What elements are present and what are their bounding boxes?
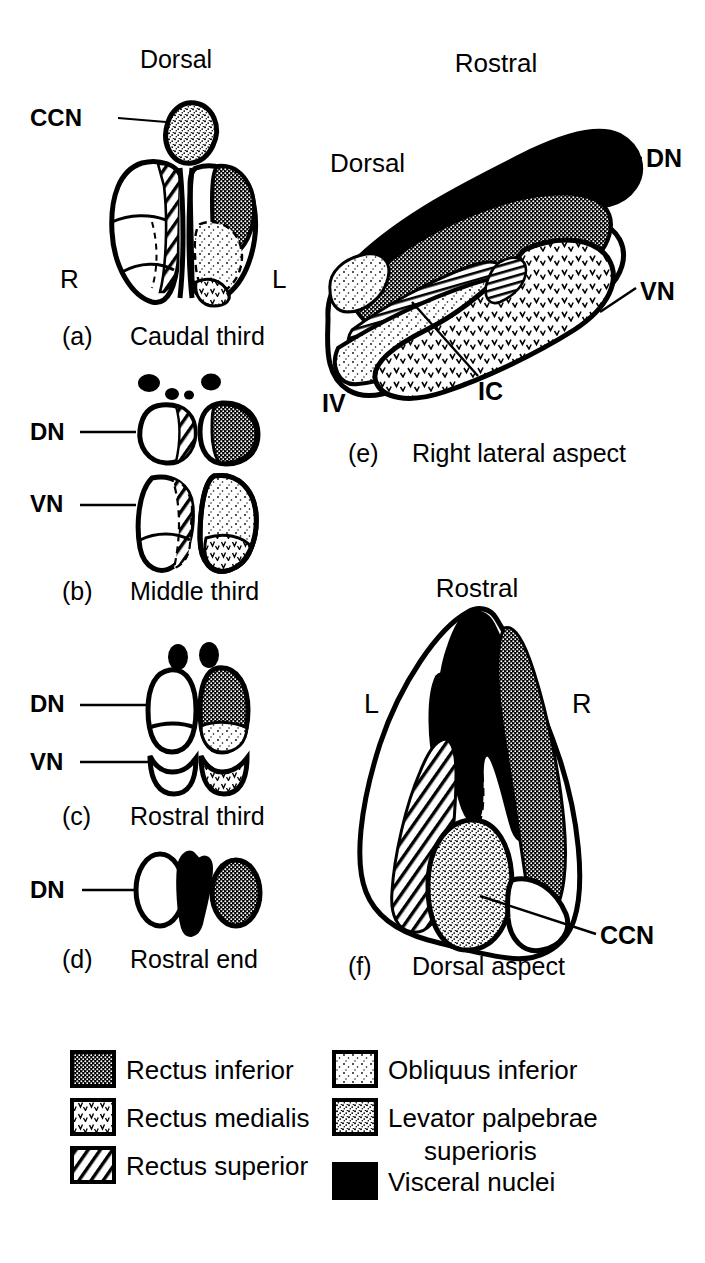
legend-swatch-rectus-superior (72, 1148, 114, 1182)
panel-b-dn-label: DN (30, 418, 65, 445)
legend-item-levator-palpebrae-superioris: Levator palpebrae superioris (334, 1100, 598, 1166)
panel-b-dot-2 (165, 388, 179, 400)
panel-b-dot-4 (201, 374, 221, 391)
legend-item-obliquus-inferior: Obliquus inferior (334, 1052, 578, 1086)
panel-a-l-label: L (272, 264, 286, 294)
panel-c-dn-right-outline (148, 670, 196, 752)
panel-a-caption: Caudal third (130, 322, 265, 350)
panel-a-dorsal-label: Dorsal (140, 45, 212, 73)
panel-a-letter: (a) (62, 322, 93, 350)
panel-c-dot-1 (168, 644, 188, 670)
panel-a-ccn-leader (118, 118, 166, 122)
legend-swatch-rectus-medialis (72, 1100, 114, 1134)
panel-b: DN VN (b) Middle third (30, 374, 259, 606)
panel-f-caption: Dorsal aspect (412, 952, 565, 980)
panel-d-letter: (d) (62, 945, 93, 973)
panel-b-vn-label: VN (30, 490, 63, 517)
panel-c-vn-left-crescent (201, 756, 247, 794)
panel-e-ic-label: IC (478, 377, 503, 405)
panel-a-ccn-label: CCN (30, 104, 82, 131)
panel-f-rostral-label: Rostral (436, 573, 518, 603)
legend-label-levator-palpebrae: Levator palpebrae (388, 1103, 598, 1133)
legend-label-rectus-superior: Rectus superior (126, 1151, 308, 1181)
legend: Rectus inferior Rectus medialis Rectus s… (72, 1052, 598, 1198)
panel-f: Rostral CCN L R (f) Dorsal aspect (348, 573, 654, 980)
panel-b-letter: (b) (62, 577, 93, 605)
panel-c-dn-left-obliquus-inferior (201, 722, 247, 752)
legend-item-rectus-superior: Rectus superior (72, 1148, 308, 1182)
legend-label-rectus-inferior: Rectus inferior (126, 1055, 294, 1085)
panel-b-caption: Middle third (130, 577, 259, 605)
panel-b-vn-left-rectus-medialis (205, 535, 252, 570)
legend-item-visceral-nuclei: Visceral nuclei (334, 1164, 555, 1198)
panel-d-caption: Rostral end (130, 945, 258, 973)
panel-a-ccn-shape (166, 103, 217, 164)
legend-swatch-obliquus-inferior (334, 1052, 376, 1086)
panel-f-letter: (f) (348, 952, 372, 980)
panel-a-r-label: R (60, 264, 79, 294)
panel-b-dot-1 (138, 374, 160, 392)
panel-c: DN VN (c) Rostral third (30, 642, 265, 830)
legend-label-levator-palpebrae-line2: superioris (424, 1136, 537, 1166)
panel-f-l-label: L (364, 689, 379, 719)
panel-f-ccn-label: CCN (600, 921, 654, 949)
panel-f-r-label: R (572, 689, 592, 719)
legend-swatch-visceral-nuclei (334, 1164, 376, 1198)
legend-swatch-levator-palpebrae (334, 1100, 376, 1134)
panel-e-iv-label: IV (322, 389, 346, 417)
figure-root: Dorsal CCN R L (a) Caudal third (0, 0, 705, 1263)
panel-e-dn-label: DN (646, 144, 682, 172)
panel-d-dn-left-rectus-inferior (212, 860, 260, 926)
panel-e: Rostral Dorsal DN VN IC IV (e) Right lat… (322, 48, 682, 467)
legend-label-obliquus-inferior: Obliquus inferior (388, 1055, 578, 1085)
legend-label-visceral-nuclei: Visceral nuclei (388, 1167, 555, 1197)
panel-d-visceral-nuclei (177, 852, 212, 936)
panel-e-letter: (e) (348, 439, 379, 467)
panel-c-dot-2 (199, 642, 219, 668)
panel-c-vn-right-crescent (150, 756, 196, 794)
anatomical-figure-svg: Dorsal CCN R L (a) Caudal third (0, 0, 705, 1263)
legend-item-rectus-medialis: Rectus medialis (72, 1100, 310, 1134)
panel-c-caption: Rostral third (130, 802, 265, 830)
panel-d: DN (d) Rostral end (30, 852, 260, 973)
panel-b-dot-3 (184, 391, 194, 400)
panel-e-vn-label: VN (640, 277, 675, 305)
panel-f-ccn-shape (428, 820, 512, 950)
legend-item-rectus-inferior: Rectus inferior (72, 1052, 294, 1086)
legend-label-rectus-medialis: Rectus medialis (126, 1103, 310, 1133)
panel-c-letter: (c) (62, 802, 91, 830)
panel-e-rostral-label: Rostral (455, 48, 537, 78)
panel-e-caption: Right lateral aspect (412, 439, 626, 467)
panel-a: Dorsal CCN R L (a) Caudal third (30, 45, 286, 350)
panel-c-dn-label: DN (30, 690, 65, 717)
panel-c-vn-label: VN (30, 748, 63, 775)
panel-d-dn-label: DN (30, 876, 65, 903)
legend-swatch-rectus-inferior (72, 1052, 114, 1086)
panel-e-dorsal-label: Dorsal (330, 148, 405, 178)
